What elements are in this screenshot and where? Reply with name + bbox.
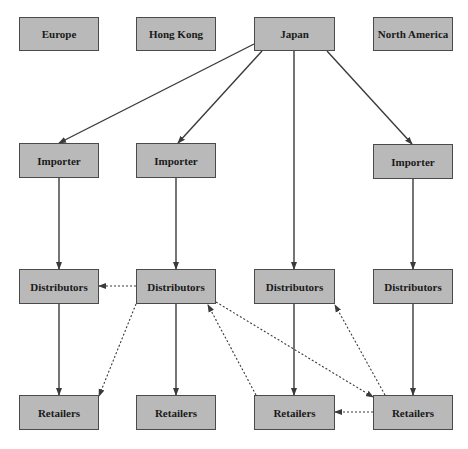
node-label: Distributors [384,281,441,293]
node-ret4: Retailers [373,395,453,430]
node-dist4: Distributors [373,269,453,304]
node-label: Distributors [30,281,87,293]
node-ret3: Retailers [254,395,335,430]
node-japan: Japan [254,17,335,51]
node-imp4: Importer [373,144,453,179]
node-label: Importer [37,155,80,167]
node-northamerica: North America [373,17,453,51]
node-dist3: Distributors [254,269,335,304]
node-ret2: Retailers [136,395,216,430]
node-imp2: Importer [136,143,216,178]
node-hongkong: Hong Kong [136,17,216,51]
node-dist1: Distributors [19,269,99,304]
node-label: North America [378,28,449,40]
node-label: Retailers [155,407,197,419]
node-label: Importer [391,156,434,168]
connector-layer [0,0,468,449]
edge-japan-to-imp1-arrow [59,44,254,143]
node-label: Retailers [273,407,315,419]
node-label: Retailers [392,407,434,419]
node-label: Japan [280,28,309,40]
node-label: Hong Kong [149,28,203,40]
edge-japan-to-imp4-arrow [327,51,412,144]
node-label: Retailers [38,407,80,419]
node-label: Distributors [147,281,204,293]
edge-ret3-to-dist2-arrow [208,305,256,395]
edge-japan-to-imp2-arrow [178,51,262,143]
node-ret1: Retailers [19,395,99,430]
node-label: Importer [154,155,197,167]
node-dist2: Distributors [136,269,216,304]
node-imp1: Importer [19,143,99,178]
edge-dist2-to-ret1-arrow [99,304,136,396]
node-label: Distributors [266,281,323,293]
edge-ret4-to-dist3-arrow [335,305,385,395]
node-europe: Europe [19,17,99,51]
node-label: Europe [42,28,77,40]
